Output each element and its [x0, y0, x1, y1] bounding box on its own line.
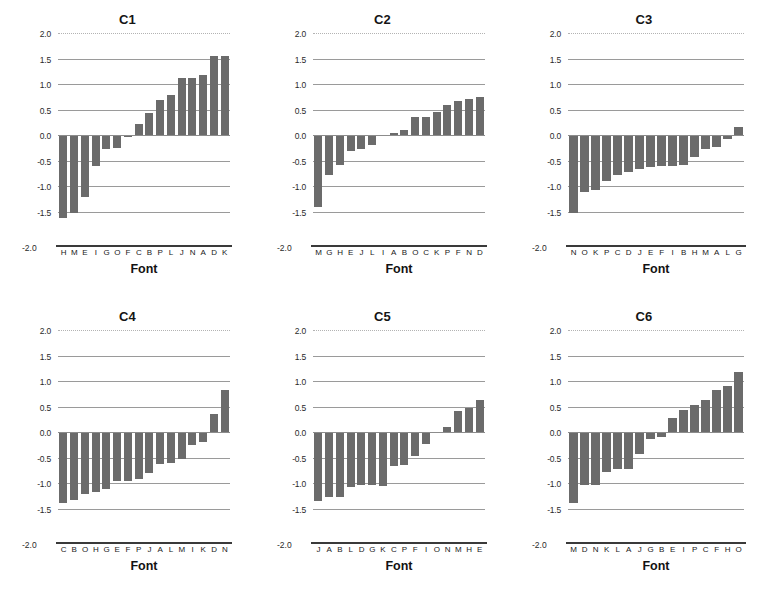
y-axis-tick-label: -0.5 [37, 454, 51, 464]
panel-title: C4 [0, 309, 255, 324]
x-axis-tick-label: G [645, 545, 656, 554]
bar [145, 432, 153, 473]
bar [178, 78, 186, 135]
x-axis-tick-label: B [335, 545, 346, 554]
panel-title: C3 [510, 12, 778, 27]
x-axis-tick-label: L [166, 248, 177, 257]
x-axis-tick-label: C [612, 248, 623, 257]
bar [156, 432, 164, 464]
y-axis-tick-label: -1.0 [37, 479, 51, 489]
bar [135, 124, 143, 135]
y-axis-tick-label: 1.5 [40, 55, 51, 65]
bar [400, 432, 408, 465]
x-axis-tick-label: B [399, 248, 410, 257]
x-axis-tick-label: L [367, 248, 378, 257]
x-axis-tick-label: E [667, 545, 678, 554]
plot-area: 2.01.51.00.50.0-0.5-1.0-1.5 [313, 330, 485, 534]
y-axis-tick-label-min: -2.0 [532, 540, 547, 550]
x-axis-tick-label: F [656, 248, 667, 257]
x-axis-line [311, 542, 487, 544]
x-axis-tick-label: J [634, 545, 645, 554]
bar [465, 408, 473, 432]
bar [59, 432, 67, 503]
y-axis-tick-label: -1.0 [292, 182, 306, 192]
plot-area: 2.01.51.00.50.0-0.5-1.0-1.5 [568, 33, 744, 237]
x-axis-tick-label: N [187, 248, 198, 257]
y-axis-tick-label: 0.0 [295, 131, 306, 141]
bar [325, 432, 333, 497]
x-axis-tick-label: G [324, 248, 335, 257]
panel-c1: C12.01.51.00.50.0-0.5-1.0-1.5-2.0HMEIGOF… [0, 0, 255, 297]
y-axis-tick-label: -0.5 [547, 454, 561, 464]
x-axis-tick-label: G [733, 248, 744, 257]
x-axis-tick-label: P [689, 545, 700, 554]
y-axis-tick-label: 1.0 [40, 377, 51, 387]
bar [357, 135, 365, 149]
bar [156, 100, 164, 135]
bar [210, 56, 218, 135]
bar [210, 414, 218, 432]
x-axis-tick-label: B [144, 248, 155, 257]
x-axis-tick-label: D [209, 545, 220, 554]
y-axis-tick-label: 1.5 [40, 352, 51, 362]
bar [357, 432, 365, 485]
zero-line [58, 432, 230, 433]
y-axis-tick-label: 0.5 [550, 403, 561, 413]
panel-c4: C42.01.51.00.50.0-0.5-1.0-1.5-2.0CBOHGEF… [0, 297, 255, 603]
bar [167, 432, 175, 463]
bar [602, 432, 610, 472]
y-axis-tick-label: 0.0 [550, 131, 561, 141]
x-axis-tick-label: H [722, 545, 733, 554]
x-axis-tick-label: H [464, 545, 475, 554]
x-axis-tick-labels: HMEIGOFCBPLJNADK [58, 248, 230, 257]
bar [569, 432, 577, 503]
panel-title: C2 [255, 12, 510, 27]
y-axis-tick-label: -1.5 [547, 505, 561, 515]
bar [454, 411, 462, 432]
bar [199, 432, 207, 442]
x-axis-tick-label: B [69, 545, 80, 554]
bar [624, 432, 632, 469]
x-axis-tick-label: F [453, 248, 464, 257]
x-axis-tick-label: H [335, 248, 346, 257]
y-axis-tick-label-min: -2.0 [277, 540, 292, 550]
bar [580, 432, 588, 485]
bar [314, 432, 322, 501]
x-axis-tick-label: M [313, 248, 324, 257]
y-axis-tick-label: 0.5 [550, 106, 561, 116]
y-axis-tick-label: -1.5 [292, 505, 306, 515]
x-axis-line [56, 542, 232, 544]
x-axis-tick-label: I [421, 545, 432, 554]
x-axis-tick-label: E [645, 248, 656, 257]
x-axis-tick-label: J [356, 248, 367, 257]
x-axis-tick-label: C [421, 248, 432, 257]
zero-line [568, 135, 744, 136]
x-axis-tick-label: P [601, 248, 612, 257]
x-axis-tick-label: O [733, 545, 744, 554]
x-axis-tick-label: D [356, 545, 367, 554]
x-axis-tick-label: N [464, 248, 475, 257]
bar [569, 135, 577, 213]
bar [411, 432, 419, 456]
x-axis-tick-label: D [209, 248, 220, 257]
bar [602, 135, 610, 181]
y-axis-tick-label: 0.0 [550, 428, 561, 438]
y-axis-tick-label: 1.5 [550, 352, 561, 362]
y-axis-tick-label: -1.0 [37, 182, 51, 192]
y-axis-tick-label: -1.0 [292, 479, 306, 489]
plot-area: 2.01.51.00.50.0-0.5-1.0-1.5 [58, 33, 230, 237]
x-axis-tick-label: A [623, 545, 634, 554]
bar [124, 432, 132, 481]
bar [635, 135, 643, 169]
y-axis-tick-label: 0.0 [40, 428, 51, 438]
bar [734, 372, 742, 432]
x-axis-tick-label: M [453, 545, 464, 554]
x-axis-line [311, 245, 487, 247]
bar [476, 400, 484, 432]
x-axis-tick-label: M [176, 545, 187, 554]
x-axis-tick-label: I [187, 545, 198, 554]
x-axis-line [566, 245, 746, 247]
y-axis-tick-label: -1.5 [292, 208, 306, 218]
x-axis-tick-label: L [612, 545, 623, 554]
y-axis-tick-label: 2.0 [295, 29, 306, 39]
